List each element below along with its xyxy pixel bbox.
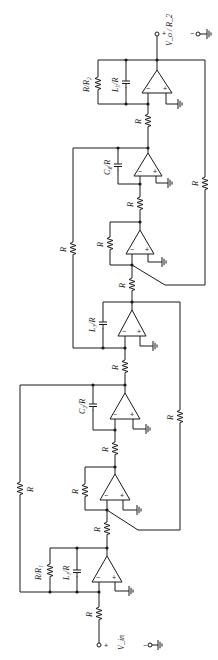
- ground-icon: [129, 586, 133, 596]
- ground-icon: [168, 178, 172, 188]
- input-label: V_in: [117, 635, 126, 650]
- svg-text:−: −: [143, 642, 147, 649]
- resistor-icon: [70, 240, 76, 256]
- resistor-icon: [17, 480, 23, 496]
- svg-text:+: +: [120, 492, 124, 499]
- capacitor-c2-icon: [89, 400, 97, 411]
- feedback-stage4-to-stage2: R: [59, 148, 76, 348]
- svg-text:R: R: [118, 283, 127, 289]
- svg-text:L₅/R: L₅/R: [111, 78, 120, 93]
- svg-text:L₃/R: L₃/R: [88, 318, 97, 333]
- resistor-icon: [129, 276, 135, 292]
- output-terminal: + V_o / R_2 −: [155, 14, 211, 60]
- capacitor-l3-icon: [99, 318, 107, 329]
- feedback-output-to-stage4: R: [191, 60, 208, 285]
- circuit-diagram: + V_o / R_2 − R/R₂ L₅/R − +: [0, 0, 218, 660]
- resistor-icon: [82, 482, 88, 498]
- stage-inverter-1: R − + R: [71, 465, 180, 548]
- resistor-icon: [112, 440, 118, 456]
- input-terminal: + V_in −: [97, 635, 162, 650]
- svg-text:+: +: [153, 168, 157, 175]
- resistor-icon: [107, 235, 113, 251]
- stage-integrator-5: R/R₂ L₅/R − + R: [82, 58, 205, 148]
- svg-text:−: −: [190, 30, 194, 37]
- ground-icon: [178, 99, 182, 109]
- svg-text:R: R: [111, 365, 120, 371]
- svg-text:R: R: [26, 487, 35, 493]
- output-node-icon: [155, 32, 159, 36]
- svg-text:R: R: [101, 447, 110, 453]
- svg-text:R: R: [166, 415, 175, 421]
- svg-text:+: +: [104, 642, 108, 649]
- svg-text:−: −: [96, 574, 100, 581]
- svg-text:R: R: [59, 247, 68, 253]
- ground-icon: [153, 341, 157, 351]
- resistor-rr1-icon: [47, 562, 53, 578]
- ground-icon: [162, 257, 166, 267]
- svg-text:L₁/R: L₁/R: [62, 566, 71, 581]
- capacitor-c4-icon: [114, 160, 122, 171]
- resistor-rr2-icon: [95, 75, 101, 91]
- stage-integrator-1: R/R₁ L₁/R − + R: [20, 546, 133, 643]
- svg-text:+: +: [145, 246, 149, 253]
- svg-text:R: R: [191, 181, 200, 187]
- resistor-icon: [104, 520, 110, 536]
- ground-icon: [158, 640, 162, 650]
- resistor-icon: [177, 408, 183, 424]
- stage-integrator-2: C₂/R − + R: [20, 383, 150, 467]
- stage-inverter-2: R − + R: [96, 220, 205, 302]
- svg-text:−: −: [146, 85, 150, 92]
- svg-text:R: R: [71, 489, 80, 495]
- resistor-icon: [96, 605, 102, 621]
- svg-text:+: +: [163, 85, 167, 92]
- svg-text:C₄/R: C₄/R: [103, 160, 112, 175]
- output-label: V_o / R_2: [165, 14, 174, 46]
- svg-text:R: R: [126, 202, 135, 208]
- svg-text:−: −: [138, 168, 142, 175]
- ground-icon: [137, 505, 141, 515]
- stage-integrator-4: C₄/R − + R: [73, 146, 172, 222]
- resistor-icon: [202, 175, 208, 191]
- svg-text:+: +: [137, 328, 141, 335]
- resistor-icon: [145, 112, 151, 128]
- svg-text:R: R: [93, 527, 102, 533]
- feedback-stage2-to-stage0: R: [17, 385, 35, 592]
- svg-text:C₂/R: C₂/R: [78, 399, 87, 414]
- svg-text:−: −: [130, 246, 134, 253]
- ground-icon: [146, 424, 150, 434]
- svg-text:−: −: [104, 492, 108, 499]
- svg-text:R: R: [85, 612, 94, 618]
- svg-text:−: −: [122, 328, 126, 335]
- svg-text:−: −: [113, 411, 117, 418]
- feedback-stage3-to-stage1: R: [166, 302, 183, 530]
- ground-icon: [207, 29, 211, 39]
- svg-text:R/R₁: R/R₁: [34, 565, 43, 581]
- capacitor-l5-icon: [122, 77, 130, 88]
- svg-text:R/R₂: R/R₂: [82, 77, 91, 93]
- svg-text:R: R: [134, 119, 143, 125]
- resistor-icon: [122, 358, 128, 374]
- capacitor-l1-icon: [73, 566, 81, 577]
- svg-text:R: R: [96, 242, 105, 248]
- svg-text:+: +: [130, 411, 134, 418]
- input-node-icon: [97, 643, 101, 647]
- stage-integrator-3: L₃/R − + R: [73, 300, 180, 385]
- svg-text:+: +: [112, 574, 116, 581]
- resistor-icon: [137, 195, 143, 211]
